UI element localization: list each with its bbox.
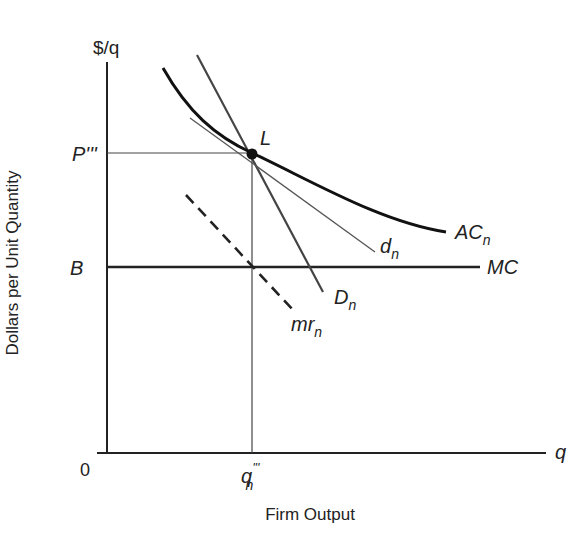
marginal-revenue-curve [186,195,293,310]
d-big-label: Dn [334,286,356,313]
ac-label: ACn [454,221,491,248]
mr-label: mrn [291,313,322,340]
point-L-label: L [260,127,271,149]
b-label: B [70,257,83,279]
demand-curve-D [197,55,323,292]
origin-label: 0 [80,460,90,480]
demand-curve-d [190,118,375,252]
mc-label: MC [487,256,519,278]
x-axis-unit-label: q [555,441,566,463]
quantity-label: q'''n [241,460,260,493]
x-axis-title: Firm Output [265,505,355,524]
d-small-label: dn [380,235,399,262]
y-axis-title: Dollars per Unit Quantity [3,170,22,356]
average-cost-curve [163,68,446,232]
y-axis-unit-label: $/q [93,37,119,58]
equilibrium-point-L [247,149,258,160]
price-label: P''' [72,143,98,165]
economics-diagram: $/q q 0 Dollars per Unit Quantity Firm O… [0,0,586,536]
